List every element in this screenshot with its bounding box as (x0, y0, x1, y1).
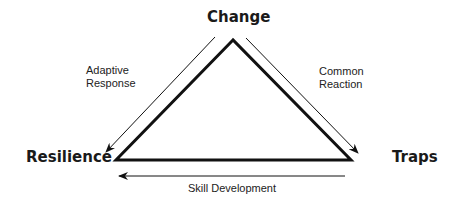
edge-label-skill-development: Skill Development (188, 182, 276, 195)
edge-label-adaptive-response: Adaptive Response (86, 64, 136, 90)
edge-label-line: Adaptive (86, 64, 136, 77)
edge-label-common-reaction: Common Reaction (319, 65, 364, 91)
node-traps: Traps (392, 150, 438, 165)
node-change: Change (207, 10, 270, 25)
edge-label-line: Reaction (319, 78, 364, 91)
triangle (116, 40, 351, 160)
edge-label-line: Response (86, 77, 136, 90)
adaptive-response-arrow (106, 37, 215, 152)
edge-label-line: Common (319, 65, 364, 78)
node-resilience: Resilience (26, 150, 112, 165)
common-reaction-arrow (246, 38, 358, 153)
triangle-diagram (0, 0, 452, 201)
